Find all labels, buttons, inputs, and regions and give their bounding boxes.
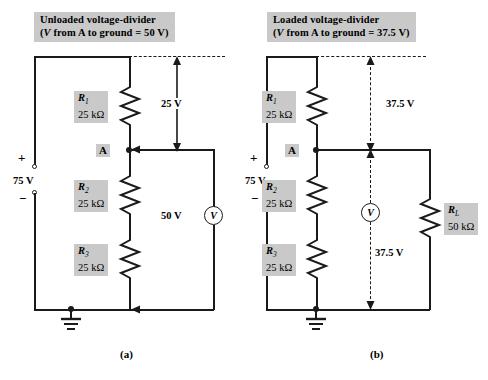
to-ground-text-b: to ground = 37.5 V): [318, 27, 410, 38]
resistor-rl-symbol-b: [420, 196, 440, 240]
wire-top-a: [34, 56, 130, 58]
node-label-a-panel-a: A: [96, 144, 110, 157]
measurement-label-25v-a: 25 V: [160, 98, 183, 109]
r3-name-a: R: [78, 245, 85, 256]
measurement-arrow-37p5v-upper-b: [364, 56, 377, 152]
voltmeter-reading-a: 50 V: [160, 210, 183, 221]
node-a-ref: A: [78, 27, 85, 38]
v-symbol: V: [44, 27, 51, 38]
node-label-a-panel-b: A: [285, 144, 299, 157]
panel-b-title-line2: (V from A to ground = 37.5 V): [273, 27, 410, 40]
r2-name-b: R: [266, 181, 273, 192]
resistor-label-r1-b: R1 25 kΩ: [262, 91, 296, 123]
resistor-r1-symbol-a: [120, 84, 140, 128]
wire-left-lower-a: [34, 193, 36, 310]
voltmeter-reading-b: 37.5 V: [374, 247, 404, 258]
source-voltage-label-a: 75 V: [13, 175, 34, 186]
r3-name-b: R: [266, 245, 273, 256]
r2-name-a: R: [78, 181, 85, 192]
r1-value-b: 25 kΩ: [266, 109, 292, 122]
wire-top-b: [266, 56, 318, 58]
wire-r2-r3-a: [129, 216, 131, 238]
panel-a-title: Unloaded voltage-divider (V from A to gr…: [34, 12, 175, 42]
resistor-label-r2-a: R2 25 kΩ: [74, 180, 108, 212]
ground-symbol-a: [58, 309, 84, 333]
panel-a-title-line2: (V from A to ground = 50 V): [40, 27, 169, 40]
wire-meter-bottom-a: [213, 225, 215, 310]
wire-left-upper-a: [34, 56, 36, 166]
r1-value-a: 25 kΩ: [78, 109, 104, 122]
ground-symbol-b: [303, 309, 329, 333]
wire-r1-top-a: [129, 56, 131, 85]
resistor-r3-symbol-a: [120, 237, 140, 281]
r3-sub-a: 3: [85, 250, 89, 259]
wire-r2-top-b: [316, 149, 318, 174]
voltmeter-a[interactable]: V: [204, 206, 223, 225]
resistor-label-r3-b: R3 25 kΩ: [262, 244, 296, 276]
source-plus-sign-b: +: [250, 153, 257, 163]
resistor-r2-symbol-b: [307, 173, 327, 217]
rl-sub-b: L: [455, 209, 459, 218]
r1-name-b: R: [266, 92, 273, 103]
source-positive-terminal-b[interactable]: [264, 164, 269, 169]
source-positive-terminal-a[interactable]: [32, 164, 37, 169]
resistor-r3-symbol-b: [307, 237, 327, 281]
panel-a-title-line1: Unloaded voltage-divider: [40, 14, 169, 27]
wire-rl-bottom-b: [429, 239, 431, 310]
panel-loaded-divider: Loaded voltage-divider (V from A to grou…: [244, 0, 488, 380]
panel-b-title-line1: Loaded voltage-divider: [273, 14, 410, 27]
source-plus-sign-a: +: [18, 153, 25, 163]
r1-name-a: R: [78, 92, 85, 103]
v-symbol-b: V: [277, 27, 284, 38]
r3-sub-b: 3: [273, 250, 277, 259]
panel-b-title: Loaded voltage-divider (V from A to grou…: [267, 12, 416, 42]
voltmeter-b[interactable]: V: [361, 203, 380, 222]
resistor-r2-symbol-a: [120, 173, 140, 217]
measurement-arrow-37p5v-lower-b: [364, 149, 377, 310]
rl-name-b: R: [448, 204, 455, 215]
caption-b: (b): [370, 348, 383, 360]
r3-value-b: 25 kΩ: [266, 262, 292, 275]
wire-r2-r3-b: [316, 216, 318, 238]
wire-node-a-to-meter-a: [132, 149, 214, 151]
resistor-label-r1-a: R1 25 kΩ: [74, 91, 108, 123]
to-ground-text: to ground = 50 V): [85, 27, 169, 38]
wire-meter-top-a: [213, 149, 215, 207]
wire-r1-top-b: [316, 56, 318, 85]
resistor-label-rl-b: RL 50 kΩ: [444, 203, 478, 235]
node-a-ref-b: A: [311, 27, 318, 38]
resistor-r1-symbol-b: [307, 84, 327, 128]
r2-sub-b: 2: [273, 186, 277, 195]
from-text-b: from: [284, 27, 311, 38]
r3-value-a: 25 kΩ: [78, 262, 104, 275]
r2-value-a: 25 kΩ: [78, 198, 104, 211]
figure-voltage-divider: Unloaded voltage-divider (V from A to gr…: [0, 0, 488, 380]
arrowhead-node-a: [131, 144, 143, 155]
caption-a: (a): [120, 348, 133, 360]
from-text: from: [51, 27, 78, 38]
wire-bottom-b: [266, 309, 430, 311]
r2-sub-a: 2: [85, 186, 89, 195]
source-minus-sign-b: −: [251, 194, 258, 204]
r2-value-b: 25 kΩ: [266, 198, 292, 211]
source-minus-sign-a: −: [19, 194, 26, 204]
resistor-label-r2-b: R2 25 kΩ: [262, 180, 296, 212]
wire-r2-top-a: [129, 149, 131, 174]
measurement-label-37p5v-upper-b: 37.5 V: [385, 98, 415, 109]
r1-sub-a: 1: [85, 97, 89, 106]
rl-value-b: 50 kΩ: [448, 221, 474, 234]
wire-rl-top-b: [429, 149, 431, 197]
panel-unloaded-divider: Unloaded voltage-divider (V from A to gr…: [0, 0, 244, 380]
arrowhead-bottom-a: [131, 304, 143, 315]
r1-sub-b: 1: [273, 97, 277, 106]
resistor-label-r3-a: R3 25 kΩ: [74, 244, 108, 276]
